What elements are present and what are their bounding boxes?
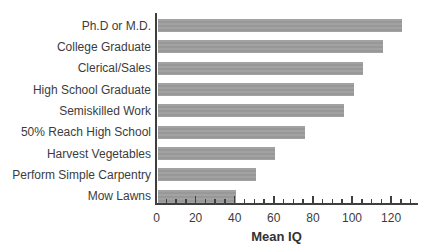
category-label: Harvest Vegetables <box>47 147 151 161</box>
x-axis-minor-tick <box>166 199 168 203</box>
x-axis-minor-tick <box>341 199 343 203</box>
bar <box>158 40 383 53</box>
x-axis-minor-tick <box>410 199 412 203</box>
x-axis-major-tick <box>351 196 353 203</box>
x-axis-minor-tick <box>244 199 246 203</box>
x-axis-major-tick <box>273 196 275 203</box>
x-axis-minor-tick <box>371 199 373 203</box>
x-axis-tick-label: 20 <box>181 211 211 225</box>
x-axis-line <box>155 203 418 205</box>
x-axis-minor-tick <box>224 199 226 203</box>
x-axis-tick-label: 40 <box>220 211 250 225</box>
x-axis-tick-label: 60 <box>259 211 289 225</box>
bar <box>158 168 256 181</box>
category-label: Clerical/Sales <box>78 61 151 75</box>
x-axis-minor-tick <box>283 199 285 203</box>
x-axis-tick-label: 120 <box>376 211 406 225</box>
x-axis-tick-label: 0 <box>142 211 172 225</box>
x-axis-minor-tick <box>214 199 216 203</box>
category-label: High School Graduate <box>33 83 151 97</box>
x-axis-minor-tick <box>205 199 207 203</box>
x-axis-minor-tick <box>361 199 363 203</box>
x-axis-minor-tick <box>293 199 295 203</box>
bar <box>158 19 402 32</box>
x-axis-minor-tick <box>185 199 187 203</box>
y-axis-line <box>155 13 157 205</box>
x-axis-major-tick <box>234 196 236 203</box>
bar <box>158 104 344 117</box>
x-axis-minor-tick <box>175 199 177 203</box>
x-axis-tick-label: 80 <box>298 211 328 225</box>
x-axis-minor-tick <box>322 199 324 203</box>
x-axis-minor-tick <box>302 199 304 203</box>
x-axis-minor-tick <box>400 199 402 203</box>
category-label: Mow Lawns <box>88 189 151 203</box>
bar-chart: Ph.D or M.D.College GraduateClerical/Sal… <box>0 0 432 252</box>
x-axis-major-tick <box>312 196 314 203</box>
bar <box>158 126 305 139</box>
x-axis-major-tick <box>156 196 158 203</box>
category-label: 50% Reach High School <box>21 125 151 139</box>
x-axis-minor-tick <box>381 199 383 203</box>
category-label: College Graduate <box>57 40 151 54</box>
x-axis-minor-tick <box>263 199 265 203</box>
x-axis-tick-label: 100 <box>337 211 367 225</box>
x-axis-title: Mean IQ <box>237 229 317 244</box>
category-label: Ph.D or M.D. <box>82 19 151 33</box>
bar <box>158 62 363 75</box>
category-label: Perform Simple Carpentry <box>12 168 151 182</box>
x-axis-minor-tick <box>254 199 256 203</box>
x-axis-major-tick <box>390 196 392 203</box>
bar <box>158 147 275 160</box>
x-axis-major-tick <box>195 196 197 203</box>
category-label: Semiskilled Work <box>59 104 151 118</box>
bar <box>158 83 354 96</box>
x-axis-minor-tick <box>332 199 334 203</box>
